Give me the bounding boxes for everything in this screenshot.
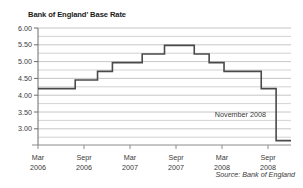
y-tick-marks <box>34 28 38 129</box>
x-tick-label-month: Mar <box>216 153 229 162</box>
chart-figure: Bank of England' Base Rate <box>0 0 303 188</box>
y-tick-label: 6.00 <box>18 24 32 33</box>
y-tick-labels: 6.00 5.50 5.00 4.50 4.00 3.50 3.00 <box>18 24 32 134</box>
x-tick-label-month: Sepr <box>168 153 184 162</box>
x-tick-label-year: 2006 <box>76 163 92 172</box>
y-tick-label: 5.50 <box>18 40 32 49</box>
y-tick-label: 3.00 <box>18 124 32 133</box>
y-tick-label: 4.00 <box>18 91 32 100</box>
x-tick-label-year: 2007 <box>122 163 138 172</box>
x-tick-label-month: Sepr <box>76 153 92 162</box>
x-tick-label-year: 2007 <box>168 163 184 172</box>
source-note: Source: Bank of England <box>215 170 295 179</box>
x-tick-label-month: Sepr <box>260 153 276 162</box>
x-tick-label-month: Mar <box>32 153 45 162</box>
y-tick-label: 3.50 <box>18 108 32 117</box>
annotation-november-2008: November 2008 <box>215 110 266 119</box>
x-tick-marks <box>38 145 268 149</box>
y-tick-label: 4.50 <box>18 74 32 83</box>
x-tick-label-month: Mar <box>124 153 137 162</box>
chart-plot-area: 6.00 5.50 5.00 4.50 4.00 3.50 3.00 Mar 2… <box>0 0 303 188</box>
y-tick-label: 5.00 <box>18 57 32 66</box>
x-tick-label-year: 2006 <box>30 163 46 172</box>
